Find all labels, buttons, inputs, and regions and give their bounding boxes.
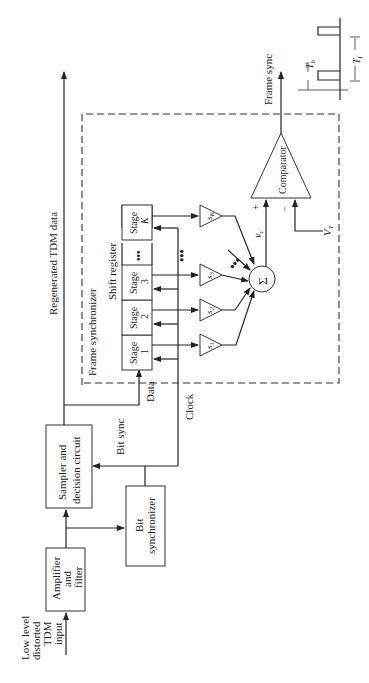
svg-text:Regenerated TDM data: Regenerated TDM data (47, 212, 59, 315)
svg-text:Data: Data (144, 381, 156, 402)
svg-text:Shift register: Shift register (106, 243, 118, 300)
data-arrow (64, 370, 139, 405)
tdm-frame-sync-diagram: Low level distorted TDM input Amplifier … (0, 0, 369, 683)
svg-text:Comparator: Comparator (277, 146, 288, 194)
svg-text:Σ: Σ (255, 277, 270, 285)
sampler-decision-block: Sampler and decision circuit (46, 425, 92, 508)
input-label: Low level distorted TDM input (19, 616, 64, 660)
stage-outputs (152, 216, 198, 345)
svg-text:synchronizer: synchronizer (145, 497, 157, 554)
timing-waveform: Tb Tf (298, 18, 364, 100)
vt-arrow (295, 200, 323, 231)
svg-text:filter: filter (72, 566, 84, 588)
svg-text:•••: ••• (225, 254, 244, 273)
svg-text:Frame sync: Frame sync (262, 54, 274, 105)
svg-text:3: 3 (139, 279, 150, 284)
weight-gains: s1 s2 s3 sK (200, 205, 222, 356)
svg-text:Tb: Tb (304, 59, 317, 69)
svg-text:−: − (279, 206, 290, 212)
svg-text:Stage: Stage (128, 306, 139, 329)
bit-synchronizer-block: Bit synchronizer (126, 486, 165, 566)
svg-text:Stage: Stage (128, 211, 139, 234)
svg-text:2: 2 (139, 314, 150, 319)
svg-text:K: K (139, 216, 150, 225)
svg-text:Clock: Clock (183, 393, 195, 420)
shift-register: Stage 1 Stage 2 Stage 3 ••• Stage K (122, 205, 152, 370)
amplifier-filter-block: Amplifier and filter (46, 548, 85, 611)
svg-text:vc: vc (252, 230, 265, 238)
diagram-svg: Low level distorted TDM input Amplifier … (0, 0, 369, 683)
svg-text:decision circuit: decision circuit (70, 436, 82, 504)
svg-text:input: input (52, 622, 64, 645)
svg-text:Stage: Stage (128, 341, 139, 364)
svg-text:1: 1 (139, 349, 150, 354)
clock-distribution: ••• (154, 228, 189, 359)
svg-text:VT: VT (321, 224, 335, 236)
svg-text:+: + (250, 204, 261, 210)
comparator-block: Comparator (251, 133, 311, 198)
svg-text:Bit sync: Bit sync (114, 419, 126, 455)
summer-block: Σ (249, 266, 275, 292)
svg-text:•••: ••• (133, 250, 144, 261)
svg-text:Stage: Stage (128, 271, 139, 294)
svg-text:Sampler and: Sampler and (56, 444, 68, 500)
svg-text:Bit: Bit (133, 519, 145, 532)
svg-text:•••: ••• (175, 249, 189, 262)
svg-text:Frame synchronizer: Frame synchronizer (86, 288, 98, 376)
